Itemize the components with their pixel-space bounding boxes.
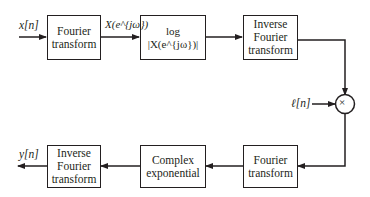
window-signal-label: ℓ[n]: [291, 97, 311, 109]
inverse-fourier-transform-block: Inverse Fourier transform: [243, 15, 298, 60]
block-label: Fourier transform: [48, 25, 100, 51]
log-magnitude-block: log |X(e^{jω})|: [140, 15, 206, 60]
multiplier-symbol: ×: [339, 96, 345, 108]
inverse-fourier-transform-block-2: Inverse Fourier transform: [47, 145, 101, 188]
input-signal-label: x[n]: [19, 19, 39, 31]
spectrum-label: X(e^{jω}): [105, 18, 148, 30]
block-label: Fourier transform: [244, 154, 297, 180]
block-label: Inverse Fourier transform: [48, 147, 100, 186]
fourier-transform-block: Fourier transform: [47, 15, 101, 60]
block-label: Complex exponential: [141, 154, 205, 180]
complex-exponential-block: Complex exponential: [140, 145, 206, 188]
block-label: Inverse Fourier transform: [244, 18, 297, 57]
block-label: log |X(e^{jω})|: [141, 25, 205, 51]
fourier-transform-block-2: Fourier transform: [243, 145, 298, 188]
output-signal-label: y[n]: [19, 148, 39, 160]
